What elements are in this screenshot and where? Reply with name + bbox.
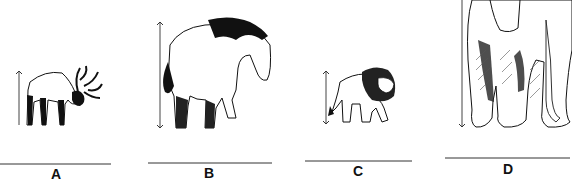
panel-label-c: C [353,163,363,179]
horse-icon [160,17,271,128]
lion-icon [326,67,395,124]
panel-label-a: A [51,166,61,182]
elephant-icon [462,0,572,127]
panel-label-b: B [204,165,214,181]
reindeer-icon [19,66,102,125]
panel-label-d: D [503,161,513,177]
animal-size-figure: A B C D [0,0,572,185]
figure-drawings [0,0,572,185]
